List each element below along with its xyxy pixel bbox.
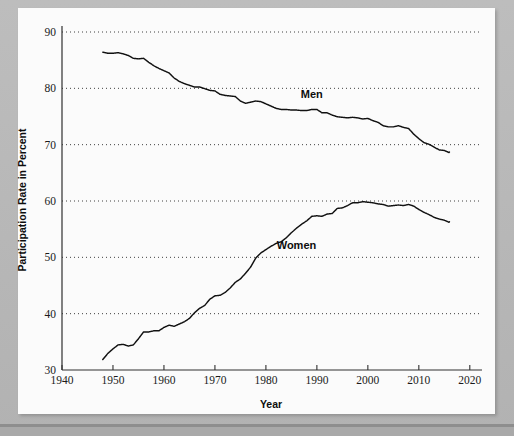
x-tick-label-1960: 1960 — [152, 374, 175, 386]
series-label-men: Men — [301, 88, 323, 100]
tick-marks-group — [62, 365, 470, 370]
line-chart: 30405060708090 1940195019601970198019902… — [0, 0, 514, 436]
y-tick-label-50: 50 — [45, 251, 57, 263]
y-tick-labels-group: 30405060708090 — [45, 26, 57, 376]
figure-root: 30405060708090 1940195019601970198019902… — [0, 0, 514, 436]
y-tick-label-80: 80 — [45, 82, 57, 94]
x-tick-labels-group: 194019501960197019801990200020102020 — [51, 374, 482, 386]
y-tick-label-90: 90 — [45, 26, 57, 38]
x-axis-title: Year — [260, 398, 282, 410]
y-axis-title: Participation Rate in Percent — [16, 128, 28, 271]
y-tick-label-60: 60 — [45, 195, 57, 207]
series-label-women: Women — [277, 239, 317, 251]
x-tick-label-1970: 1970 — [203, 374, 226, 386]
x-tick-label-2020: 2020 — [458, 374, 481, 386]
x-tick-label-1990: 1990 — [305, 374, 328, 386]
x-tick-label-1940: 1940 — [51, 374, 74, 386]
y-tick-label-70: 70 — [45, 139, 57, 151]
gridlines-group — [62, 32, 482, 314]
axes-group — [62, 26, 482, 370]
x-tick-label-1950: 1950 — [101, 374, 124, 386]
chart-svg: 30405060708090 1940195019601970198019902… — [0, 0, 514, 436]
x-tick-label-2000: 2000 — [356, 374, 379, 386]
x-tick-label-2010: 2010 — [407, 374, 430, 386]
y-tick-label-40: 40 — [45, 308, 57, 320]
series-line-women — [103, 202, 450, 360]
series-line-men — [103, 52, 450, 152]
x-tick-label-1980: 1980 — [254, 374, 277, 386]
